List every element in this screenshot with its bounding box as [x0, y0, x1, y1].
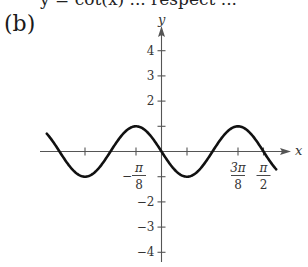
x-tick-label: π2: [257, 161, 271, 192]
y-tick-label: −2: [137, 195, 155, 209]
svg-text:π: π: [134, 161, 144, 175]
svg-text:−: −: [122, 169, 132, 183]
svg-text:8: 8: [234, 178, 242, 192]
y-tick-label: −3: [137, 220, 155, 234]
y-tick-label: 4: [147, 44, 155, 58]
y-tick-label: 2: [147, 94, 155, 108]
x-tick-label: 3π8: [230, 161, 247, 192]
svg-text:2: 2: [260, 178, 268, 192]
svg-text:π: π: [259, 161, 269, 175]
y-tick-label: −4: [137, 245, 155, 259]
y-axis-label: y: [157, 12, 166, 27]
svg-text:8: 8: [135, 178, 143, 192]
sine-graph: π8−3π8π2432−2−3−4 x y: [0, 0, 308, 267]
y-tick-label: 3: [147, 69, 155, 83]
x-tick-label: π8−: [122, 161, 146, 192]
svg-text:3π: 3π: [230, 161, 247, 175]
x-axis-label: x: [295, 143, 303, 158]
